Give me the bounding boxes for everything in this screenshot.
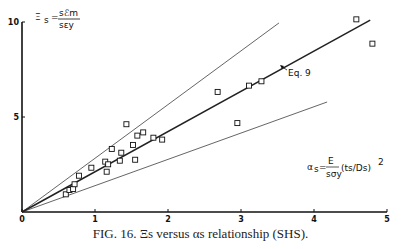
- x-tick-label: 1: [92, 215, 98, 224]
- data-point-square-icon: [151, 135, 156, 140]
- y-tick-label: 10: [8, 18, 20, 27]
- svg-text:sεy: sεy: [59, 20, 75, 30]
- figure-caption: FIG. 16. Ξs versus αs relationship (SHS)…: [0, 226, 401, 242]
- svg-text:α: α: [307, 162, 313, 172]
- y-tick-label: 5: [13, 113, 19, 122]
- data-point-square-icon: [133, 157, 138, 162]
- data-point-square-icon: [89, 165, 94, 170]
- data-point-square-icon: [119, 150, 124, 155]
- x-tick-label: 3: [238, 215, 244, 224]
- svg-text:Eq. 9: Eq. 9: [288, 68, 311, 78]
- svg-text:E: E: [328, 156, 334, 166]
- data-point-square-icon: [71, 187, 76, 192]
- data-point-square-icon: [135, 133, 140, 138]
- y-axis-formula: Ξ s = sℰm sεy: [35, 8, 80, 30]
- x-tick-label: 4: [311, 215, 317, 224]
- x-axis-formula: α s = E sσy (ts/Ds) 2: [307, 156, 384, 179]
- data-point-square-icon: [106, 162, 111, 167]
- svg-text:=: =: [51, 12, 59, 22]
- data-point-square-icon: [72, 182, 77, 187]
- x-tick-label: 2: [165, 215, 171, 224]
- svg-text:2: 2: [378, 157, 384, 167]
- data-point-square-icon: [109, 146, 114, 151]
- x-tick-label: 0: [19, 215, 25, 224]
- data-point-square-icon: [141, 130, 146, 135]
- svg-text:sσy: sσy: [326, 169, 342, 179]
- chart: 012345510 Ξ s = sℰm sεy α s = E sσy (ts/…: [0, 0, 401, 249]
- x-tick-label: 5: [384, 215, 390, 224]
- upper-bound-line: [22, 23, 279, 212]
- data-point-square-icon: [247, 83, 252, 88]
- data-point-square-icon: [215, 89, 220, 94]
- data-point-square-icon: [354, 17, 359, 22]
- svg-text:(ts/Ds): (ts/Ds): [341, 163, 371, 173]
- svg-text:sℰm: sℰm: [59, 8, 78, 18]
- data-point-square-icon: [370, 41, 375, 46]
- data-point-square-icon: [160, 137, 165, 142]
- data-point-square-icon: [130, 142, 135, 147]
- data-point-square-icon: [235, 121, 240, 126]
- svg-text:s: s: [44, 15, 49, 25]
- data-point-square-icon: [104, 169, 109, 174]
- data-point-square-icon: [259, 79, 264, 84]
- data-point-square-icon: [124, 122, 129, 127]
- data-point-square-icon: [76, 173, 81, 178]
- svg-text:Ξ: Ξ: [35, 12, 41, 22]
- data-point-square-icon: [117, 158, 122, 163]
